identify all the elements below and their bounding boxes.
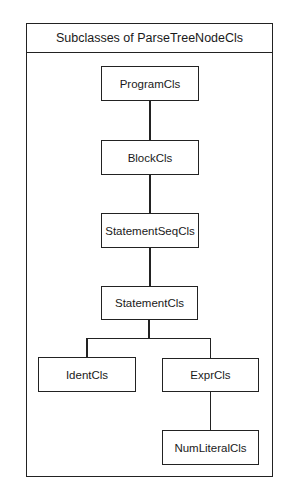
node-programcls: ProgramCls	[101, 66, 199, 101]
diagram-title: Subclasses of ParseTreeNodeCls	[27, 24, 272, 53]
node-exprcls: ExprCls	[162, 358, 259, 392]
edge-program-block	[149, 100, 151, 140]
edge-statement-trunk	[148, 319, 150, 338]
edge-block-statementseq	[149, 174, 151, 213]
node-identcls: IdentCls	[38, 357, 136, 392]
edge-branch-expr	[210, 338, 212, 358]
node-statementseqcls: StatementSeqCls	[101, 213, 199, 248]
node-blockcls: BlockCls	[101, 140, 199, 175]
edge-statementseq-statement	[149, 247, 151, 286]
node-numliteralcls: NumLiteralCls	[162, 430, 259, 465]
node-statementcls: StatementCls	[101, 286, 198, 320]
edge-expr-numliteral	[210, 391, 212, 430]
edge-branch-horizontal	[86, 338, 211, 340]
edge-branch-ident	[86, 338, 88, 357]
